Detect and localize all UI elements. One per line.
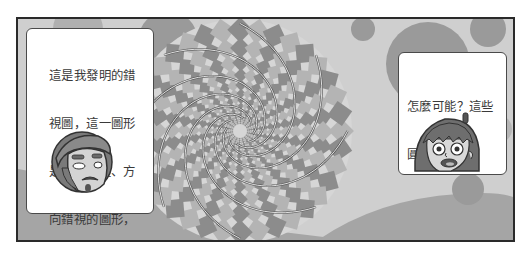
speech-line: 向錯視的圖形， <box>49 212 136 228</box>
speech-bubble-right: 怎麼可能？這些 圓分明在動！ <box>398 52 507 175</box>
bearded-man-face-icon <box>48 128 118 198</box>
speech-bubble-left: 這是我發明的錯 視圖，這一圖形 是產生角度、方 向錯視的圖形， 這個旋渦圖形實 … <box>26 28 154 214</box>
speech-line: 這是我發明的錯 <box>49 68 136 84</box>
spiral-tile <box>235 137 237 139</box>
comic-panel: 這是我發明的錯 視圖，這一圖形 是產生角度、方 向錯視的圖形， 這個旋渦圖形實 … <box>16 17 515 242</box>
girl-face-icon <box>409 109 485 173</box>
